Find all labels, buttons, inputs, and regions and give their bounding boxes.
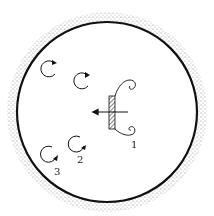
label-1: 1: [131, 139, 137, 150]
label-3: 3: [54, 166, 60, 177]
label-2: 2: [77, 154, 83, 165]
diagram-canvas: 1 2 3: [0, 0, 214, 216]
